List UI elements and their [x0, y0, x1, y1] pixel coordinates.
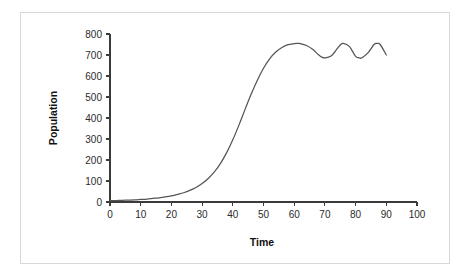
- x-tick-label: 20: [166, 209, 178, 220]
- axes-group: [110, 34, 417, 202]
- x-tick-label: 50: [258, 209, 270, 220]
- x-tick-label: 0: [107, 209, 113, 220]
- x-tick-label: 90: [381, 209, 393, 220]
- x-tick-label: 60: [289, 209, 301, 220]
- y-tick-label: 700: [85, 50, 102, 61]
- y-tick-label: 300: [85, 134, 102, 145]
- y-tick-label: 800: [85, 29, 102, 40]
- x-axis-title: Time: [250, 236, 274, 248]
- y-axis-ticks: 0100200300400500600700800: [85, 29, 110, 208]
- x-tick-label: 40: [227, 209, 239, 220]
- x-axis-ticks: 0102030405060708090100: [107, 202, 426, 220]
- x-tick-label: 80: [350, 209, 362, 220]
- y-tick-label: 100: [85, 176, 102, 187]
- y-tick-label: 0: [96, 197, 102, 208]
- x-tick-label: 70: [319, 209, 331, 220]
- x-tick-label: 30: [197, 209, 209, 220]
- y-tick-label: 600: [85, 71, 102, 82]
- x-tick-label: 10: [135, 209, 147, 220]
- population-curve: [110, 43, 386, 200]
- y-tick-label: 200: [85, 155, 102, 166]
- y-tick-label: 400: [85, 113, 102, 124]
- y-axis-title: Population: [47, 91, 59, 145]
- population-vs-time-chart: 0100200300400500600700800 01020304050607…: [0, 0, 469, 276]
- y-tick-label: 500: [85, 92, 102, 103]
- x-tick-label: 100: [409, 209, 426, 220]
